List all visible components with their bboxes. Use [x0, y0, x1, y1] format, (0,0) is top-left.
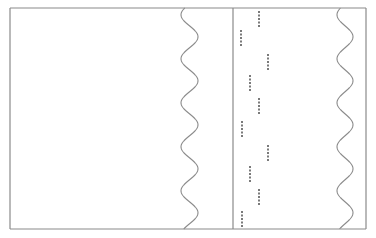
dot-column: [267, 145, 269, 161]
dot-mark: [241, 215, 243, 217]
dot-column: [241, 211, 243, 227]
dot-mark: [267, 65, 269, 67]
dot-mark: [258, 15, 260, 17]
dot-mark: [258, 193, 260, 195]
dot-mark: [241, 222, 243, 224]
dot-mark: [258, 200, 260, 202]
dot-column: [249, 75, 251, 91]
dot-mark: [249, 75, 251, 77]
dot-mark: [258, 196, 260, 198]
dot-mark: [258, 18, 260, 20]
dot-mark: [241, 135, 243, 137]
dot-mark: [241, 121, 243, 123]
dot-column: [241, 121, 243, 137]
dot-mark: [249, 82, 251, 84]
dot-column: [258, 11, 260, 27]
dot-mark: [267, 54, 269, 56]
dot-mark: [258, 11, 260, 13]
diagram-canvas: [0, 0, 376, 238]
dot-mark: [241, 218, 243, 220]
dot-mark: [258, 98, 260, 100]
dot-mark: [240, 30, 242, 32]
dot-mark: [240, 37, 242, 39]
dot-mark: [241, 211, 243, 213]
dot-column: [258, 98, 260, 114]
dot-mark: [258, 22, 260, 24]
left-torn-edge: [181, 8, 198, 229]
dot-column: [267, 54, 269, 70]
dot-mark: [258, 112, 260, 114]
dot-mark: [249, 173, 251, 175]
dot-mark: [258, 109, 260, 111]
dot-mark: [267, 159, 269, 161]
dot-mark: [258, 102, 260, 104]
dot-column: [240, 30, 242, 46]
dot-mark: [249, 180, 251, 182]
dot-mark: [267, 152, 269, 154]
dot-mark: [258, 203, 260, 205]
dot-mark: [267, 58, 269, 60]
dot-mark: [249, 86, 251, 88]
dot-mark: [249, 177, 251, 179]
dot-mark: [249, 166, 251, 168]
dot-mark: [258, 105, 260, 107]
dot-mark: [249, 79, 251, 81]
dot-mark: [258, 25, 260, 27]
dot-mark: [240, 41, 242, 43]
right-torn-edge: [337, 8, 353, 229]
dot-mark: [241, 125, 243, 127]
outer-frame: [10, 8, 366, 229]
dot-mark: [267, 68, 269, 70]
dot-mark: [241, 128, 243, 130]
dot-mark: [241, 225, 243, 227]
dot-mark: [267, 145, 269, 147]
dot-mark: [249, 89, 251, 91]
dot-mark: [240, 34, 242, 36]
dot-mark: [240, 44, 242, 46]
dot-column: [249, 166, 251, 182]
dot-mark: [267, 156, 269, 158]
dot-marks: [240, 11, 269, 227]
torn-edges: [181, 8, 353, 229]
dot-mark: [241, 132, 243, 134]
dot-mark: [267, 61, 269, 63]
dot-mark: [267, 149, 269, 151]
dot-column: [258, 189, 260, 205]
dot-mark: [258, 189, 260, 191]
dot-mark: [249, 170, 251, 172]
